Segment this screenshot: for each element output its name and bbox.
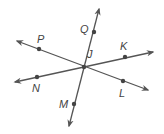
point-j	[82, 65, 86, 69]
intersecting-lines-diagram: QPKNLMJ	[0, 0, 164, 134]
label-j: J	[86, 48, 93, 60]
point-q	[92, 30, 96, 34]
label-n: N	[32, 82, 40, 94]
label-l: L	[119, 87, 125, 99]
point-l	[121, 79, 125, 83]
label-q: Q	[80, 23, 89, 35]
point-m	[72, 102, 76, 106]
label-p: P	[37, 33, 45, 45]
label-k: K	[120, 40, 128, 52]
point-p	[37, 47, 41, 51]
labels-layer: QPKNLMJ	[32, 23, 128, 110]
point-k	[123, 55, 127, 59]
point-n	[35, 75, 39, 79]
label-m: M	[59, 98, 69, 110]
